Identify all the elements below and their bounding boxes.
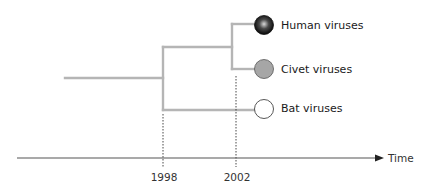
- leaf-label-civet: Civet viruses: [281, 63, 352, 76]
- tree-branches: [65, 24, 256, 110]
- tick-label-1998: 1998: [151, 171, 178, 183]
- civet-virus-marker-icon: [255, 60, 274, 79]
- leaf-label-bat: Bat viruses: [281, 102, 342, 115]
- leaf-label-human: Human viruses: [281, 19, 363, 32]
- tick-label-2002: 2002: [224, 171, 251, 183]
- bat-virus-marker-icon: [255, 100, 274, 119]
- time-axis-label: Time: [388, 152, 414, 165]
- human-virus-marker-icon: [255, 16, 274, 35]
- phylogenetic-tree: [0, 0, 428, 195]
- time-axis-arrow-icon: [375, 155, 384, 162]
